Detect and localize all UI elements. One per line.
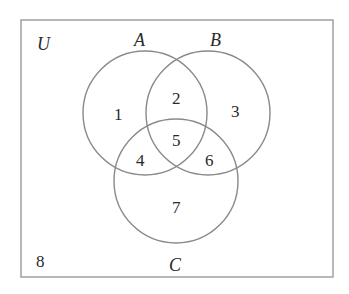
region-label-4: 4 [136,151,145,170]
venn-diagram: U A B C 1 2 3 4 5 6 7 8 [0,0,349,294]
region-label-8: 8 [36,252,45,271]
set-a-label: A [133,30,146,50]
region-label-2: 2 [172,89,181,108]
set-b-label: B [210,30,221,50]
set-a-circle [83,51,207,175]
region-label-6: 6 [205,151,214,170]
region-label-5: 5 [172,131,181,150]
region-label-3: 3 [231,102,240,121]
universe-label: U [37,34,51,54]
region-label-7: 7 [172,198,181,217]
set-c-label: C [169,255,182,275]
region-label-1: 1 [114,105,123,124]
